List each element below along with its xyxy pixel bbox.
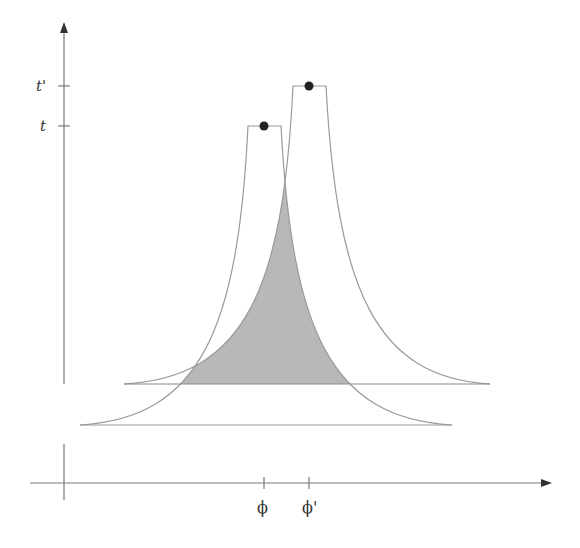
peak-dot-phi	[260, 122, 269, 131]
peak-dot-phi-prime	[305, 82, 314, 91]
label-t-prime: t'	[36, 77, 46, 95]
shaded-overlap-region	[124, 86, 490, 384]
label-phi: ϕ	[257, 498, 268, 517]
label-t: t	[40, 117, 47, 135]
x-axis-arrow-icon	[541, 479, 552, 487]
label-phi-prime: ϕ'	[302, 498, 317, 517]
x-axis	[30, 479, 552, 487]
diagram-canvas: t' t ϕ ϕ'	[0, 0, 580, 548]
y-axis-arrow-icon	[60, 22, 68, 33]
